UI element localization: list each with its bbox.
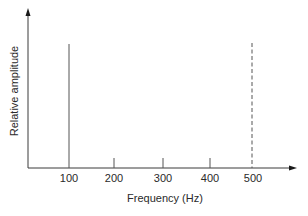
tick-label-200: 200 (105, 172, 123, 184)
spectrum-chart: 100 200 300 400 500 Frequency (Hz) Relat… (0, 0, 308, 216)
tick-label-400: 400 (201, 172, 219, 184)
tick-label-500: 500 (244, 172, 262, 184)
y-axis-arrow-icon (26, 8, 31, 16)
tick-label-100: 100 (60, 172, 78, 184)
tick-label-300: 300 (154, 172, 172, 184)
x-axis-title: Frequency (Hz) (127, 192, 203, 204)
y-axis-title: Relative amplitude (8, 46, 20, 137)
x-axis-arrow-icon (289, 166, 297, 171)
